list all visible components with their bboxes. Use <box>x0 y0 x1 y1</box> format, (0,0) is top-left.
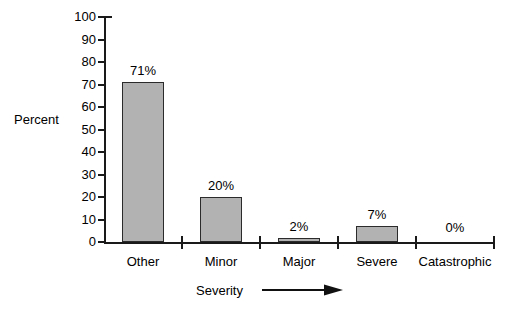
x-axis-tick <box>181 236 183 249</box>
bar-chart-figure: Percent 0102030405060708090100 71%20%2%7… <box>0 0 515 313</box>
y-axis-tick-label: 30 <box>68 168 96 181</box>
y-axis-tick-label-wrap: 40 <box>66 145 96 158</box>
x-axis-line <box>104 242 494 244</box>
y-axis-tick-label-wrap: 10 <box>66 213 96 226</box>
y-axis-tick-label: 90 <box>68 33 96 46</box>
x-axis-title-group: Severity <box>196 281 344 299</box>
bar-value-label: 71% <box>113 64 173 78</box>
bar <box>200 197 242 242</box>
y-axis-tick-label-wrap: 20 <box>66 190 96 203</box>
bar <box>356 226 398 242</box>
y-axis-tick-label-wrap: 90 <box>66 33 96 46</box>
x-axis-title: Severity <box>196 283 243 298</box>
y-axis-top-cap <box>104 16 112 18</box>
bar-value-label: 7% <box>347 208 407 222</box>
bar-value-label: 0% <box>425 221 485 235</box>
y-axis-tick-label-wrap: 70 <box>66 78 96 91</box>
y-axis-tick <box>98 16 105 18</box>
y-axis-tick-label-wrap: 80 <box>66 55 96 68</box>
y-axis-tick <box>98 174 105 176</box>
y-axis-tick-label-wrap: 60 <box>66 100 96 113</box>
y-axis-tick-label: 100 <box>68 10 96 23</box>
y-axis-tick <box>98 61 105 63</box>
y-axis-tick-label: 10 <box>68 213 96 226</box>
x-axis-category-label: Catastrophic <box>405 254 505 269</box>
bar <box>278 238 320 243</box>
y-axis-tick-label-wrap: 0 <box>66 235 96 248</box>
y-axis-tick <box>98 129 105 131</box>
x-axis-tick <box>415 236 417 249</box>
y-axis-tick <box>98 84 105 86</box>
y-axis-tick <box>98 106 105 108</box>
y-axis-tick-label-wrap: 30 <box>66 168 96 181</box>
y-axis-tick-label: 20 <box>68 190 96 203</box>
bar <box>122 82 164 242</box>
y-axis-tick-label: 60 <box>68 100 96 113</box>
y-axis-tick <box>98 39 105 41</box>
y-axis-tick-label: 40 <box>68 145 96 158</box>
y-axis-title: Percent <box>14 113 59 127</box>
x-axis-tick <box>337 236 339 249</box>
right-arrow-icon <box>262 283 344 297</box>
bar-value-label: 2% <box>269 220 329 234</box>
y-axis-tick <box>98 196 105 198</box>
bar-value-label: 20% <box>191 179 251 193</box>
x-axis-tick <box>259 236 261 249</box>
y-axis-tick-label: 50 <box>68 123 96 136</box>
y-axis-tick-label-wrap: 50 <box>66 123 96 136</box>
x-axis-tick <box>493 236 495 249</box>
y-axis-tick-label: 80 <box>68 55 96 68</box>
y-axis-tick-label: 70 <box>68 78 96 91</box>
y-axis-tick <box>98 151 105 153</box>
y-axis-tick <box>98 219 105 221</box>
y-axis-tick-label: 0 <box>68 235 96 248</box>
y-axis-tick-label-wrap: 100 <box>66 10 96 23</box>
